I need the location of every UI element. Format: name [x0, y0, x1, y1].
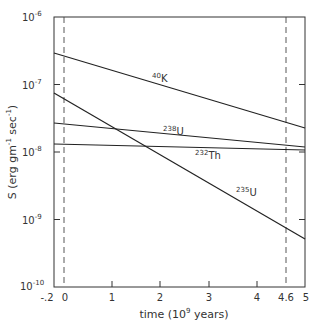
- svg-text:2: 2: [157, 292, 163, 303]
- y-tick-1e-7: 10-7: [22, 78, 42, 91]
- series-line-232Th: [54, 144, 305, 150]
- svg-text:0: 0: [62, 292, 68, 303]
- x-tick-labels: -.2 0 1 2 3 4 4.6 5: [40, 292, 309, 303]
- plot-frame: [54, 17, 305, 287]
- series-line-40K: [54, 53, 305, 128]
- y-axis-ticks: [54, 85, 305, 220]
- svg-text:5: 5: [303, 292, 309, 303]
- svg-text:1: 1: [109, 292, 115, 303]
- series-label-238U: 238U: [163, 125, 184, 137]
- series-line-235U: [54, 93, 305, 239]
- y-tick-1e-8: 10-8: [22, 145, 42, 158]
- x-axis-ticks: [112, 281, 257, 287]
- svg-text:4: 4: [254, 292, 260, 303]
- y-tick-1e-6: 10-6: [22, 10, 42, 23]
- series-label-232Th: 232Th: [195, 149, 221, 161]
- y-axis-label: S (erg gm-1 sec-1): [5, 105, 19, 199]
- series-label-235U: 235U: [236, 186, 257, 198]
- svg-text:3: 3: [206, 292, 212, 303]
- chart: 10-6 10-7 10-8 10-9 10-10 -.2 0 1 2 3 4 …: [0, 0, 313, 323]
- svg-text:-.2: -.2: [40, 292, 53, 303]
- y-tick-1e-9: 10-9: [22, 213, 42, 226]
- y-tick-labels: 10-6 10-7 10-8 10-9 10-10: [20, 10, 44, 292]
- y-tick-1e-10: 10-10: [20, 279, 44, 292]
- x-axis-label: time (109 years): [139, 307, 228, 321]
- svg-text:4.6: 4.6: [278, 292, 294, 303]
- series-label-40K: 40K: [152, 72, 168, 84]
